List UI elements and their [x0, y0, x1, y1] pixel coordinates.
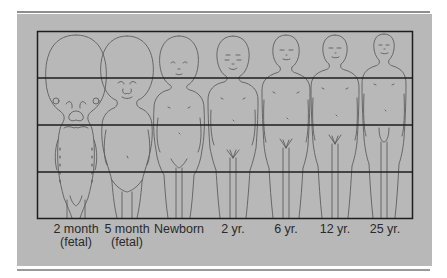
stage-label-25-yr: 25 yr. — [370, 223, 401, 236]
stage-label-2-month: 2 month (fetal) — [53, 223, 98, 249]
stage-label-12-yr: 12 yr. — [320, 223, 351, 236]
figure-5-month-fetal — [101, 36, 154, 218]
figure-2-month-fetal — [46, 35, 107, 218]
figure-6-yr — [262, 35, 310, 218]
stage-label-newborn: Newborn — [154, 223, 204, 236]
stage-label-5-month: 5 month (fetal) — [104, 223, 149, 249]
figure-25-yr — [362, 34, 406, 218]
stage-label-2-yr: 2 yr. — [221, 223, 245, 236]
stage-label-6-yr: 6 yr. — [274, 223, 298, 236]
bottom-rule — [17, 269, 430, 271]
figure-12-yr — [311, 35, 359, 218]
figure-2-yr — [208, 36, 258, 218]
figure-newborn — [154, 36, 205, 218]
